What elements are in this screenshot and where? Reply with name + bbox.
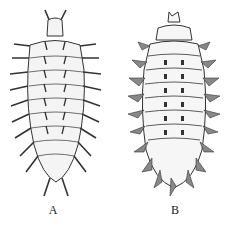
- larva-a-illustration: [0, 0, 114, 200]
- panel-label-b: B: [165, 203, 185, 218]
- larva-b-illustration: [114, 0, 228, 200]
- panel-label-a: A: [43, 203, 63, 218]
